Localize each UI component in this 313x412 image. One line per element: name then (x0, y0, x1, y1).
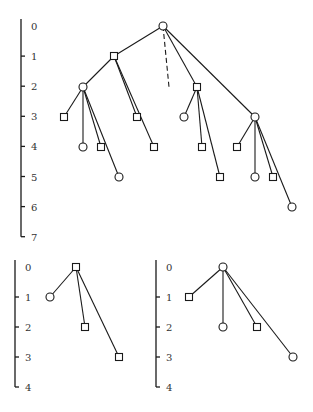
axis-tick-label: 3 (166, 352, 172, 363)
axis-tick-label: 2 (31, 81, 37, 92)
small-tree-right: 01234 (156, 260, 297, 393)
axis-tick-label: 0 (31, 21, 37, 32)
axis-tick-label: 0 (25, 262, 31, 273)
tree-edge (223, 267, 293, 357)
circle-node-icon (115, 173, 123, 181)
depth-axis: 01234567 (21, 19, 37, 243)
diagram-canvas: 012345670123401234 (0, 0, 313, 412)
axis-tick-label: 1 (166, 292, 172, 303)
nodes (46, 264, 123, 361)
tree-edge (255, 117, 273, 177)
tree-edge (223, 267, 257, 327)
tree-edge (255, 117, 292, 207)
axis-tick-label: 4 (25, 382, 31, 393)
circle-node-icon (79, 83, 87, 91)
circle-node-icon (251, 113, 259, 121)
square-node-icon (98, 144, 105, 151)
square-node-icon (116, 354, 123, 361)
tree-edge (83, 56, 114, 87)
nodes (186, 263, 298, 361)
square-node-icon (254, 324, 261, 331)
square-node-icon (73, 264, 80, 271)
tree-edge (50, 267, 76, 297)
axis-tick-label: 2 (25, 322, 31, 333)
circle-node-icon (219, 323, 227, 331)
axis-tick-label: 0 (166, 262, 172, 273)
axis-tick-label: 3 (31, 111, 37, 122)
square-node-icon (134, 114, 141, 121)
square-node-icon (186, 294, 193, 301)
square-node-icon (194, 84, 201, 91)
edges (50, 267, 119, 357)
square-node-icon (199, 144, 206, 151)
nodes (61, 22, 297, 211)
main-tree: 01234567 (21, 19, 296, 243)
square-node-icon (82, 324, 89, 331)
square-node-icon (234, 144, 241, 151)
circle-node-icon (251, 173, 259, 181)
square-node-icon (270, 174, 277, 181)
square-node-icon (217, 174, 224, 181)
tree-edge (184, 87, 197, 117)
axis-tick-label: 3 (25, 352, 31, 363)
circle-node-icon (288, 203, 296, 211)
axis-tick-label: 1 (25, 292, 31, 303)
circle-node-icon (79, 143, 87, 151)
axis-tick-label: 5 (31, 172, 37, 183)
tree-edge (237, 117, 255, 147)
square-node-icon (151, 144, 158, 151)
tree-edge (114, 26, 163, 56)
tree-edge (64, 87, 83, 117)
circle-node-icon (159, 22, 167, 30)
axis-tick-label: 6 (31, 202, 37, 213)
circle-node-icon (180, 113, 188, 121)
circle-node-icon (46, 293, 54, 301)
tree-edge (189, 267, 223, 297)
axis-tick-label: 2 (166, 322, 172, 333)
circle-node-icon (289, 353, 297, 361)
small-tree-left: 01234 (15, 260, 123, 393)
edges (189, 267, 293, 357)
tree-edge (83, 87, 119, 177)
tree-edge (83, 87, 101, 147)
tree-edge (163, 26, 255, 117)
square-node-icon (61, 114, 68, 121)
axis-tick-label: 7 (31, 232, 37, 243)
square-node-icon (111, 53, 118, 60)
axis-tick-label: 4 (166, 382, 172, 393)
tree-edge (114, 56, 154, 147)
depth-axis: 01234 (15, 260, 31, 393)
circle-node-icon (219, 263, 227, 271)
axis-tick-label: 4 (31, 141, 37, 152)
depth-axis: 01234 (156, 260, 172, 393)
axis-tick-label: 1 (31, 51, 37, 62)
